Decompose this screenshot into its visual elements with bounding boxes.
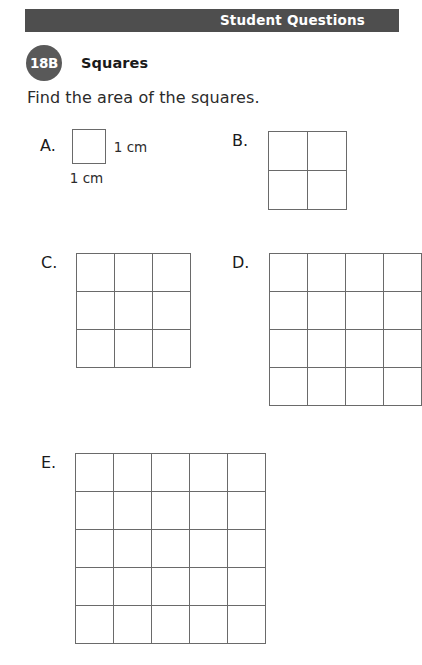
unit-square-cell: [115, 330, 153, 368]
problem-a-figure: 1 cm 1 cm: [72, 129, 106, 164]
problem-b-grid: [268, 131, 347, 210]
unit-square-cell: [115, 254, 153, 292]
unit-square-cell: [384, 254, 422, 292]
unit-square-cell: [269, 132, 308, 171]
instruction-text: Find the area of the squares.: [27, 88, 260, 107]
unit-square-cell: [115, 292, 153, 330]
problem-e-label: E.: [41, 455, 56, 471]
unit-square-cell: [308, 292, 346, 330]
unit-square-cell: [228, 454, 266, 492]
unit-square-cell: [152, 568, 190, 606]
unit-square-cell: [346, 330, 384, 368]
unit-square-cell: [384, 292, 422, 330]
unit-square-cell: [228, 568, 266, 606]
problem-e: E.: [41, 453, 266, 644]
lesson-heading: 18B Squares: [26, 45, 148, 81]
unit-square-cell: [308, 171, 347, 210]
unit-square-cell: [190, 454, 228, 492]
unit-square-cell: [76, 568, 114, 606]
problem-a: A. 1 cm 1 cm: [40, 129, 106, 164]
unit-square-cell: [269, 171, 308, 210]
unit-square-cell: [152, 606, 190, 644]
problem-d: D.: [232, 253, 422, 406]
unit-square-cell: [153, 254, 191, 292]
unit-square-cell: [384, 330, 422, 368]
unit-square-cell: [76, 530, 114, 568]
page-header-title: Student Questions: [220, 14, 365, 28]
unit-square-cell: [77, 254, 115, 292]
lesson-title: Squares: [81, 55, 148, 71]
problem-d-grid: [269, 253, 422, 406]
unit-square-cell: [114, 492, 152, 530]
unit-square-cell: [190, 606, 228, 644]
unit-square-cell: [308, 330, 346, 368]
problem-a-dimension-bottom: 1 cm: [70, 170, 103, 186]
unit-square-cell: [76, 454, 114, 492]
unit-square-cell: [190, 530, 228, 568]
unit-square-cell: [114, 606, 152, 644]
unit-square-cell: [346, 292, 384, 330]
unit-square-cell: [308, 368, 346, 406]
unit-square-cell: [77, 292, 115, 330]
unit-square-cell: [190, 492, 228, 530]
unit-square-cell: [384, 368, 422, 406]
problem-a-label: A.: [40, 138, 56, 154]
unit-square-cell: [228, 606, 266, 644]
problem-a-dimension-right: 1 cm: [114, 139, 147, 155]
unit-square-cell: [190, 568, 228, 606]
unit-square-cell: [77, 330, 115, 368]
problem-d-label: D.: [232, 255, 249, 271]
unit-square: [72, 129, 106, 164]
unit-square-cell: [270, 292, 308, 330]
unit-square-cell: [346, 254, 384, 292]
unit-square-cell: [114, 530, 152, 568]
unit-square-cell: [114, 454, 152, 492]
unit-square-cell: [153, 292, 191, 330]
lesson-number-badge: 18B: [26, 45, 62, 81]
problem-c: C.: [41, 253, 191, 368]
unit-square-cell: [346, 368, 384, 406]
unit-square-cell: [270, 368, 308, 406]
unit-square-cell: [114, 568, 152, 606]
unit-square-cell: [270, 330, 308, 368]
unit-square-cell: [152, 492, 190, 530]
problem-c-label: C.: [41, 255, 57, 271]
page-header-bar: Student Questions: [25, 9, 399, 32]
unit-square-cell: [228, 530, 266, 568]
unit-square-cell: [153, 330, 191, 368]
unit-square-cell: [308, 254, 346, 292]
unit-square-cell: [76, 492, 114, 530]
unit-square-cell: [76, 606, 114, 644]
unit-square-cell: [308, 132, 347, 171]
unit-square-cell: [152, 454, 190, 492]
unit-square-cell: [270, 254, 308, 292]
unit-square-cell: [152, 530, 190, 568]
unit-square-cell: [228, 492, 266, 530]
problem-c-grid: [76, 253, 191, 368]
problem-b: B.: [232, 131, 347, 210]
problem-e-grid: [75, 453, 266, 644]
problem-b-label: B.: [232, 133, 248, 149]
